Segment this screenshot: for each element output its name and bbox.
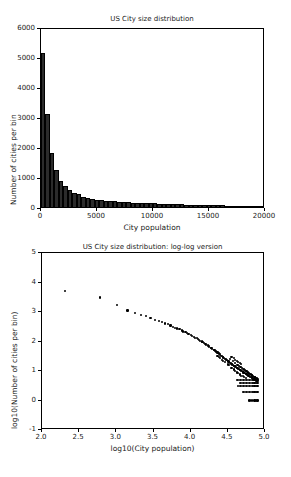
y-tick-label: 5 [0,248,36,256]
y-tick [38,400,41,401]
y-tick-label: 2000 [0,144,35,152]
scatter-point [221,359,223,361]
x-tick [115,429,116,432]
y-tick-label: 5000 [0,54,35,62]
histogram-title: US City size distribution [40,15,264,23]
x-tick [40,208,41,211]
histogram-x-axis-label: City population [40,223,264,232]
y-tick-label: 1 [0,366,36,374]
y-tick [38,429,41,430]
histogram-panel: US City size distribution Number of citi… [0,0,291,240]
y-tick-label: 4000 [0,84,35,92]
scatter-point [126,309,128,311]
y-tick [38,341,41,342]
x-tick [78,429,79,432]
scatter-point [116,304,118,306]
y-tick-label: 0 [0,204,35,212]
y-tick [37,28,40,29]
x-tick [41,429,42,432]
y-tick-label: 0 [0,396,36,404]
x-tick-label: 5.0 [242,433,286,441]
x-tick-label: 0 [18,212,62,220]
scatter-point [154,319,156,321]
scatter-point [245,377,247,379]
scatter-point [167,323,169,325]
x-tick [208,208,209,211]
histogram-y-axis-label: Number of cities per bin [9,114,18,205]
scatter-point [149,317,151,319]
scatter-point [145,315,147,317]
loglog-title: US City size distribution: log-log versi… [41,243,264,251]
scatter-point [229,358,231,360]
loglog-x-axis-label: log10(City population) [41,444,264,453]
x-tick [152,208,153,211]
scatter-point [240,363,242,365]
figure-canvas: US City size distribution Number of citi… [0,0,291,477]
y-tick [37,178,40,179]
histogram-bar [261,206,264,207]
y-tick-label: 6000 [0,24,35,32]
histogram-plot-area [40,28,264,208]
scatter-point [256,379,258,381]
x-tick-label: 20000 [242,212,286,220]
y-tick [37,88,40,89]
y-tick [37,58,40,59]
x-tick [153,429,154,432]
scatter-point [256,385,258,387]
x-tick-label: 15000 [186,212,230,220]
scatter-point [164,322,166,324]
scatter-point [158,320,160,322]
y-tick [37,148,40,149]
y-tick [38,311,41,312]
y-tick [38,252,41,253]
x-tick [190,429,191,432]
loglog-panel: US City size distribution: log-log versi… [0,240,291,477]
scatter-point [256,399,258,401]
scatter-point [251,399,253,401]
scatter-point [216,355,218,357]
y-tick [37,208,40,209]
y-tick-label: 3 [0,307,36,315]
x-tick-label: 10000 [130,212,174,220]
y-tick-label: 1000 [0,174,35,182]
x-tick [264,208,265,211]
scatter-point [256,382,258,384]
x-tick [96,208,97,211]
y-tick-label: -1 [0,425,36,433]
scatter-point [99,296,101,298]
y-tick [38,370,41,371]
loglog-plot-area [41,252,264,429]
scatter-point [224,361,226,363]
x-tick [264,429,265,432]
scatter-point [64,290,66,292]
y-tick-label: 4 [0,278,36,286]
scatter-point [140,314,142,316]
y-tick-label: 2 [0,337,36,345]
x-tick-label: 5000 [74,212,118,220]
scatter-point [134,312,136,314]
scatter-point [161,321,163,323]
x-tick [227,429,228,432]
y-tick [38,282,41,283]
scatter-point [256,391,258,393]
y-tick [37,118,40,119]
y-tick-label: 3000 [0,114,35,122]
